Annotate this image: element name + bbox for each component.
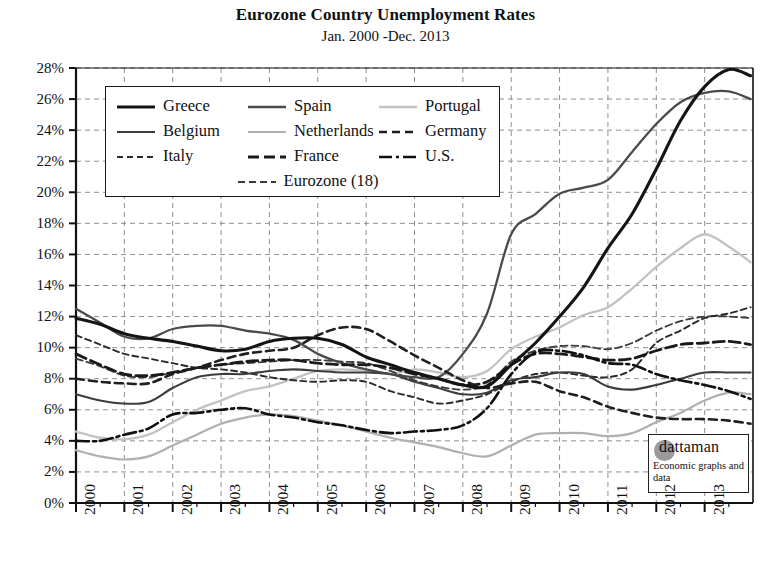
legend-swatch-belgium <box>116 125 156 139</box>
legend-item-eurozone[interactable]: Eurozone (18) <box>227 173 379 190</box>
x-axis-tick-label: 2008 <box>469 484 485 515</box>
watermark-tagline: Economic graphs and data <box>653 460 749 483</box>
legend-swatch-greece <box>116 100 156 114</box>
legend-swatch-netherlands <box>247 125 287 139</box>
legend-swatch-spain <box>247 100 287 114</box>
legend-item-greece[interactable]: Greece <box>106 98 237 115</box>
y-axis-tick-label: 20% <box>20 185 64 200</box>
x-axis-tick-label: 2002 <box>179 484 195 515</box>
x-axis-tick-label: 2013 <box>711 484 727 515</box>
legend-label-eurozone: Eurozone (18) <box>284 173 379 190</box>
legend-label-italy: Italy <box>163 148 193 165</box>
y-axis-tick-label: 4% <box>20 433 64 448</box>
watermark-name: dattaman <box>659 438 719 456</box>
legend-label-us: U.S. <box>425 148 454 165</box>
y-axis-tick-label: 24% <box>20 123 64 138</box>
x-axis-tick-label: 2004 <box>275 484 291 515</box>
legend-item-belgium[interactable]: Belgium <box>106 123 237 140</box>
y-axis-tick-label: 10% <box>20 340 64 355</box>
x-axis-tick-label: 2003 <box>227 484 243 515</box>
legend-label-germany: Germany <box>425 123 486 140</box>
legend-item-germany[interactable]: Germany <box>368 123 499 140</box>
x-axis-tick-label: 2010 <box>566 484 582 515</box>
legend-swatch-eurozone <box>237 175 277 189</box>
x-axis-tick-label: 2009 <box>517 484 533 515</box>
legend-item-portugal[interactable]: Portugal <box>368 98 499 115</box>
x-axis-tick-label: 2011 <box>614 485 630 515</box>
legend-item-spain[interactable]: Spain <box>237 98 368 115</box>
y-axis-tick-label: 16% <box>20 247 64 262</box>
legend-item-netherlands[interactable]: Netherlands <box>237 123 368 140</box>
y-axis-tick-label: 12% <box>20 309 64 324</box>
legend-row: GreeceSpainPortugal <box>106 94 499 119</box>
legend-label-portugal: Portugal <box>425 98 481 115</box>
legend-label-greece: Greece <box>163 98 210 115</box>
y-axis-tick-label: 28% <box>20 61 64 76</box>
x-axis-tick-label: 2001 <box>130 484 146 515</box>
chart-legend: GreeceSpainPortugalBelgiumNetherlandsGer… <box>105 86 500 197</box>
legend-label-belgium: Belgium <box>163 123 220 140</box>
y-axis-tick-label: 18% <box>20 216 64 231</box>
legend-label-spain: Spain <box>294 98 332 115</box>
y-axis-tick-label: 8% <box>20 371 64 386</box>
legend-swatch-portugal <box>378 100 418 114</box>
x-axis-tick-label: 2000 <box>82 484 98 515</box>
y-axis-tick-label: 2% <box>20 464 64 479</box>
series-line-portugal <box>76 234 751 439</box>
y-axis-tick-label: 22% <box>20 154 64 169</box>
x-axis-tick-label: 2005 <box>324 484 340 515</box>
y-axis-tick-label: 14% <box>20 278 64 293</box>
legend-label-netherlands: Netherlands <box>294 123 374 140</box>
y-axis-tick-label: 0% <box>20 496 64 511</box>
x-axis-tick-label: 2007 <box>421 484 437 515</box>
y-axis-tick-label: 26% <box>20 92 64 107</box>
legend-swatch-italy <box>116 150 156 164</box>
legend-item-france[interactable]: France <box>237 148 368 165</box>
legend-swatch-us <box>378 150 418 164</box>
legend-row: ItalyFranceU.S. <box>106 144 499 169</box>
legend-item-italy[interactable]: Italy <box>106 148 237 165</box>
legend-label-france: France <box>294 148 339 165</box>
legend-swatch-germany <box>378 125 418 139</box>
x-axis-tick-label: 2006 <box>372 484 388 515</box>
legend-row: BelgiumNetherlandsGermany <box>106 119 499 144</box>
legend-item-us[interactable]: U.S. <box>368 148 499 165</box>
y-axis-tick-label: 6% <box>20 402 64 417</box>
legend-swatch-france <box>247 150 287 164</box>
legend-row: Eurozone (18) <box>106 169 499 194</box>
x-axis-tick-label: 2012 <box>662 484 678 515</box>
chart-page: Eurozone Country Unemployment Rates Jan.… <box>0 0 771 579</box>
